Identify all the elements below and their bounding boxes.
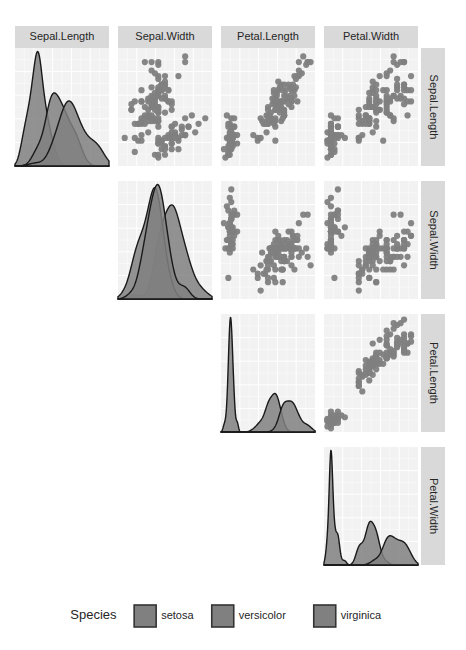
scatter-point <box>366 377 372 383</box>
scatter-point <box>296 254 302 260</box>
scatter-point <box>192 129 198 135</box>
scatter-point <box>404 112 410 118</box>
scatter-point <box>169 107 175 113</box>
scatter-point <box>370 359 376 365</box>
scatter-point <box>370 262 376 268</box>
scatter-point <box>138 115 144 121</box>
scatter-point <box>162 152 168 158</box>
scatter-point <box>128 107 134 113</box>
scatter-point <box>408 220 414 226</box>
scatter-point <box>281 81 287 87</box>
legend-swatch-versicolor[interactable] <box>212 605 234 627</box>
scatter-point <box>231 115 237 121</box>
scatter-point <box>155 87 161 93</box>
scatter-point <box>305 59 311 65</box>
scatter-point <box>189 112 195 118</box>
scatter-point <box>328 121 334 127</box>
scatter-point <box>331 245 337 251</box>
scatter-point <box>384 245 390 251</box>
scatter-point <box>401 228 407 234</box>
panel-density-Petal.Length <box>221 314 315 432</box>
scatter-point <box>366 115 372 121</box>
strip-label: Petal.Width <box>343 30 399 42</box>
scatter-point <box>391 320 397 326</box>
scatter-point <box>269 101 275 107</box>
scatter-point <box>391 59 397 65</box>
scatter-point <box>366 254 372 260</box>
scatter-point <box>296 59 302 65</box>
scatter-point <box>335 124 341 130</box>
scatterplot-matrix: Sepal.LengthSepal.WidthPetal.LengthPetal… <box>0 0 466 650</box>
scatter-point <box>296 67 302 73</box>
scatter-point <box>387 98 393 104</box>
scatter-point <box>271 275 277 281</box>
scatter-point <box>373 279 379 285</box>
scatter-point <box>250 266 256 272</box>
scatter-point <box>138 132 144 138</box>
panel-scatter-Petal.Width-vs-Petal.Length <box>324 314 418 432</box>
scatter-point <box>328 126 334 132</box>
scatter-point <box>182 115 188 121</box>
scatter-point <box>138 98 144 104</box>
panel-scatter-Petal.Width-vs-Sepal.Length <box>324 48 418 166</box>
legend-label-versicolor: versicolor <box>239 609 286 621</box>
column-strip-Sepal.Width: Sepal.Width <box>118 26 212 48</box>
scatter-point <box>142 59 148 65</box>
strip-label: Petal.Length <box>237 30 299 42</box>
scatter-point <box>266 115 272 121</box>
scatter-point <box>391 245 397 251</box>
scatter-point <box>377 73 383 79</box>
scatter-point <box>169 101 175 107</box>
scatter-point <box>230 224 236 230</box>
scatter-point <box>384 73 390 79</box>
scatter-point <box>185 124 191 130</box>
scatter-point <box>148 84 154 90</box>
legend-swatch-setosa[interactable] <box>134 605 156 627</box>
panel-density-Petal.Width <box>324 447 418 565</box>
scatter-point <box>132 98 138 104</box>
scatter-point <box>328 409 334 415</box>
scatter-point <box>275 87 281 93</box>
scatter-point <box>328 195 334 201</box>
legend-swatch-virginica[interactable] <box>314 605 336 627</box>
scatter-point <box>387 67 393 73</box>
scatter-point <box>373 254 379 260</box>
column-strip-Petal.Length: Petal.Length <box>221 26 315 48</box>
scatter-point <box>175 73 181 79</box>
scatter-point <box>397 212 403 218</box>
scatter-point <box>408 339 414 345</box>
strip-label: Sepal.Length <box>428 75 440 140</box>
scatter-point <box>408 331 414 337</box>
legend-label-virginica: virginica <box>341 609 382 621</box>
panel-scatter-Sepal.Width-vs-Sepal.Length <box>118 48 212 166</box>
scatter-point <box>138 138 144 144</box>
scatter-point <box>227 195 233 201</box>
scatter-point <box>148 118 154 124</box>
scatter-point <box>401 101 407 107</box>
scatter-point <box>296 220 302 226</box>
scatter-point <box>356 287 362 293</box>
scatter-point <box>148 67 154 73</box>
scatter-point <box>373 124 379 130</box>
scatter-point <box>294 98 300 104</box>
strip-label: Petal.Length <box>428 342 440 404</box>
scatter-point <box>356 121 362 127</box>
scatter-point <box>265 279 271 285</box>
scatter-point <box>342 224 348 230</box>
strip-label: Sepal.Width <box>135 30 194 42</box>
scatter-point <box>285 101 291 107</box>
scatter-point <box>391 118 397 124</box>
scatter-point <box>356 115 362 121</box>
row-strip-Sepal.Length: Sepal.Length <box>421 48 445 166</box>
scatter-point <box>291 73 297 79</box>
panel-scatter-Petal.Length-vs-Sepal.Length <box>221 48 315 166</box>
scatter-point <box>259 250 265 256</box>
scatter-point <box>165 87 171 93</box>
scatter-point <box>401 245 407 251</box>
scatter-point <box>387 266 393 272</box>
scatter-point <box>175 146 181 152</box>
scatter-point <box>391 326 397 332</box>
scatter-point <box>408 87 414 93</box>
scatter-point <box>296 245 302 251</box>
scatter-point <box>250 132 256 138</box>
